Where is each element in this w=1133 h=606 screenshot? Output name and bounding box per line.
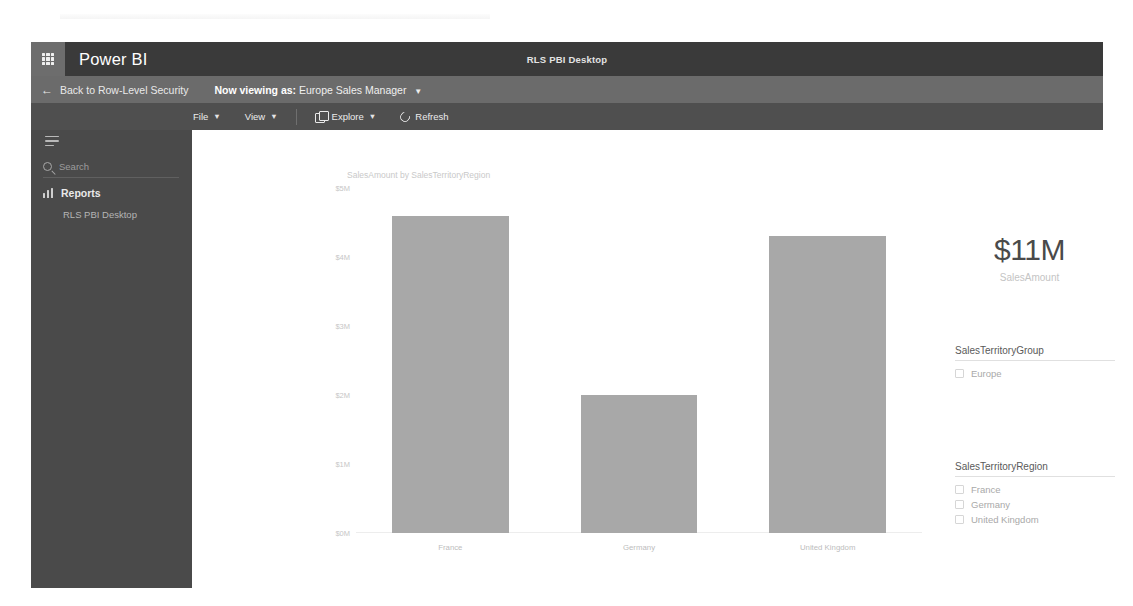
slicer-sales-territory-group[interactable]: SalesTerritoryGroup Europe [955,345,1115,381]
refresh-button[interactable]: Refresh [388,103,460,130]
now-viewing-as-role: Europe Sales Manager [299,84,406,96]
y-axis-tick: $1M [335,460,350,469]
y-axis-tick: $2M [335,391,350,400]
slicer-item-label: United Kingdom [971,514,1039,525]
checkbox-icon[interactable] [955,485,964,494]
refresh-label: Refresh [415,111,448,122]
slicer-item-label: France [971,484,1001,495]
brand-bar: Power BI RLS PBI Desktop [31,42,1103,76]
command-bar: File ▼ View ▼ Explore ▼ Refresh [31,103,1103,130]
y-axis-tick: $5M [335,184,350,193]
rls-viewing-banner: ← Back to Row-Level Security Now viewing… [31,76,1103,103]
plot-area [356,188,922,533]
slicer-sales-territory-region[interactable]: SalesTerritoryRegion France Germany Unit… [955,461,1115,527]
back-to-row-level-security-link[interactable]: Back to Row-Level Security [60,84,188,96]
view-menu-label: View [245,111,265,122]
kpi-label: SalesAmount [962,272,1097,283]
slicer-item-united-kingdom[interactable]: United Kingdom [955,512,1115,527]
kpi-value: $11M [962,235,1097,265]
left-navigation-pane: Search Reports RLS PBI Desktop [31,130,192,588]
now-viewing-as-prefix: Now viewing as: [214,84,296,96]
slicer-title: SalesTerritoryGroup [955,345,1115,361]
slicer-item-label: Germany [971,499,1010,510]
slicer-item-germany[interactable]: Germany [955,497,1115,512]
y-axis-tick: $3M [335,322,350,331]
product-name[interactable]: Power BI [79,50,148,69]
hamburger-icon[interactable] [45,136,59,147]
now-viewing-as[interactable]: Now viewing as: Europe Sales Manager ▼ [214,84,422,96]
file-menu-button[interactable]: File ▼ [181,103,233,130]
column-chart-visual[interactable]: SalesAmount by SalesTerritoryRegion $5M$… [320,170,930,565]
chevron-down-icon[interactable]: ▼ [414,87,422,96]
slicer-item-europe[interactable]: Europe [955,366,1115,381]
chevron-down-icon: ▼ [270,112,277,121]
search-icon [43,162,52,171]
y-axis-tick: $4M [335,253,350,262]
slicer-item-list: France Germany United Kingdom [955,477,1115,527]
power-bi-window: Power BI RLS PBI Desktop ← Back to Row-L… [31,42,1103,576]
bar-chart-icon [43,188,54,198]
chevron-down-icon: ▼ [369,112,376,121]
slicer-item-list: Europe [955,361,1115,381]
checkbox-icon[interactable] [955,369,964,378]
file-menu-label: File [193,111,208,122]
chart-title: SalesAmount by SalesTerritoryRegion [347,170,490,180]
app-launcher-button[interactable] [31,42,65,76]
chart-bar[interactable] [581,395,698,533]
slicer-item-france[interactable]: France [955,482,1115,497]
sidebar-item-rls-pbi-desktop[interactable]: RLS PBI Desktop [63,209,137,220]
x-axis-tick-label: France [438,543,462,552]
document-title: RLS PBI Desktop [31,54,1103,65]
report-canvas: SalesAmount by SalesTerritoryRegion $5M$… [192,130,1103,576]
waffle-grid-icon [42,53,55,66]
sidebar-section-reports[interactable]: Reports [43,187,101,199]
arrow-left-icon[interactable]: ← [41,84,53,96]
slicer-item-label: Europe [971,368,1002,379]
view-menu-button[interactable]: View ▼ [233,103,290,130]
kpi-card-salesamount[interactable]: $11M SalesAmount [962,235,1097,283]
explore-menu-button[interactable]: Explore ▼ [303,103,389,130]
explore-menu-label: Explore [332,111,364,122]
chart-bar[interactable] [392,216,509,533]
refresh-icon [398,110,412,124]
y-axis-tick: $0M [335,529,350,538]
y-axis: $5M$4M$3M$2M$1M$0M [320,188,354,533]
x-axis-tick-label: Germany [623,543,655,552]
chevron-down-icon: ▼ [213,112,220,121]
search-placeholder: Search [59,161,89,172]
chart-bar[interactable] [769,236,886,533]
explore-icon [315,111,327,122]
sidebar-section-label: Reports [61,187,101,199]
search-input[interactable]: Search [43,156,179,178]
checkbox-icon[interactable] [955,515,964,524]
command-bar-divider [296,109,297,125]
capture-artifact-strip [60,14,490,19]
x-axis-tick-label: United Kingdom [800,543,855,552]
x-axis-labels: FranceGermanyUnited Kingdom [356,543,922,557]
slicer-title: SalesTerritoryRegion [955,461,1115,477]
checkbox-icon[interactable] [955,500,964,509]
